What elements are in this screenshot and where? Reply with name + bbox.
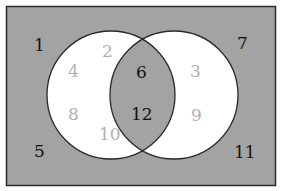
number-12: 12 [131,104,153,124]
number-8: 8 [68,104,79,124]
number-3: 3 [190,61,201,81]
venn-diagram: 1 7 5 11 2 4 8 10 6 12 3 9 [0,0,282,191]
number-5: 5 [34,141,45,161]
number-1: 1 [34,35,45,55]
number-9: 9 [191,105,202,125]
number-4: 4 [68,61,79,81]
number-7: 7 [237,33,248,53]
number-6: 6 [136,62,147,82]
number-11: 11 [234,142,256,162]
number-10: 10 [99,124,121,144]
number-2: 2 [102,41,113,61]
